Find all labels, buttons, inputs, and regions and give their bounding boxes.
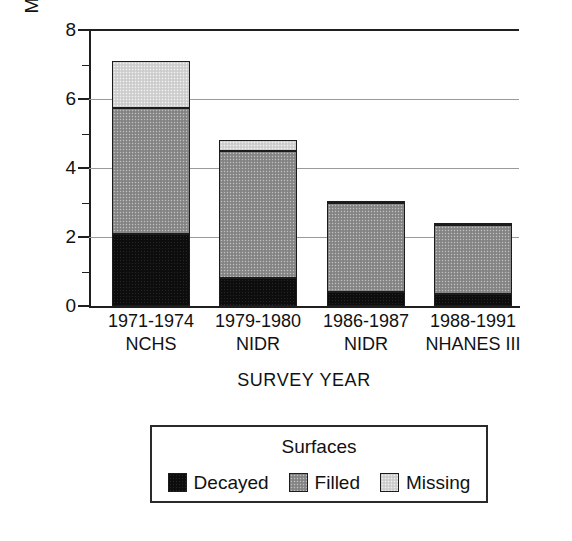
x-tick-label-year: 1988-1991 — [419, 310, 527, 332]
bar-1979-1980[interactable] — [219, 30, 297, 306]
legend-swatch-decayed — [168, 473, 187, 492]
legend-items: DecayedFilledMissing — [152, 467, 486, 497]
x-tick-label-year: 1986-1987 — [312, 310, 420, 332]
x-tick-label-year: 1979-1980 — [204, 310, 312, 332]
x-tick-group-2: 1986-1987NIDR — [312, 310, 420, 356]
y-tick-label-8: 8 — [20, 20, 76, 39]
y-tick-label-2: 2 — [20, 227, 76, 246]
bar-segment-missing[interactable] — [327, 201, 405, 203]
legend-swatch-missing — [380, 473, 399, 492]
bar-segment-decayed[interactable] — [434, 294, 512, 306]
legend-item-missing[interactable]: Missing — [380, 472, 470, 493]
x-tick-group-1: 1979-1980NIDR — [204, 310, 312, 356]
legend-swatch-filled — [289, 473, 308, 492]
bar-1986-1987[interactable] — [327, 30, 405, 306]
x-tick-label-survey: NIDR — [312, 332, 420, 356]
plot-area — [89, 30, 519, 306]
bar-segment-filled[interactable] — [434, 225, 512, 294]
bar-segment-filled[interactable] — [327, 203, 405, 293]
y-tick-minor-1 — [82, 272, 89, 273]
bar-segment-missing[interactable] — [112, 61, 190, 108]
x-tick-label-survey: NHANES III — [419, 332, 527, 356]
bar-1988-1991[interactable] — [434, 30, 512, 306]
y-tick-major-6 — [78, 98, 89, 100]
x-axis-title: SURVEY YEAR — [89, 370, 519, 391]
y-tick-minor-7 — [82, 65, 89, 66]
bar-segment-decayed[interactable] — [219, 278, 297, 306]
y-tick-major-2 — [78, 236, 89, 238]
bar-segment-filled[interactable] — [219, 151, 297, 279]
bar-segment-filled[interactable] — [112, 108, 190, 234]
y-tick-label-0: 0 — [20, 296, 76, 315]
legend-label-decayed: Decayed — [194, 472, 269, 493]
bar-segment-decayed[interactable] — [327, 292, 405, 306]
y-tick-minor-3 — [82, 203, 89, 204]
x-tick-group-3: 1988-1991NHANES III — [419, 310, 527, 356]
y-tick-minor-5 — [82, 134, 89, 135]
x-tick-group-0: 1971-1974NCHS — [97, 310, 205, 356]
bar-segment-decayed[interactable] — [112, 234, 190, 306]
x-axis-line — [89, 306, 520, 308]
y-tick-major-8 — [78, 29, 89, 31]
stacked-bar-chart-figure: Mean surfaces 02468 1971-1974NCHS1979-19… — [0, 0, 572, 541]
x-tick-label-survey: NIDR — [204, 332, 312, 356]
bar-segment-missing[interactable] — [219, 140, 297, 150]
y-axis-tick-labels: 02468 — [8, 0, 76, 340]
y-tick-major-0 — [78, 305, 89, 307]
bar-1971-1974[interactable] — [112, 30, 190, 306]
y-tick-label-6: 6 — [20, 89, 76, 108]
x-axis-tick-labels: 1971-1974NCHS1979-1980NIDR1986-1987NIDR1… — [89, 310, 519, 370]
legend-label-filled: Filled — [315, 472, 360, 493]
legend-box: Surfaces DecayedFilledMissing — [150, 425, 488, 503]
y-tick-major-4 — [78, 167, 89, 169]
legend-item-decayed[interactable]: Decayed — [168, 472, 269, 493]
x-tick-label-survey: NCHS — [97, 332, 205, 356]
legend-label-missing: Missing — [406, 472, 470, 493]
y-tick-label-4: 4 — [20, 158, 76, 177]
legend-title: Surfaces — [152, 435, 486, 458]
legend-item-filled[interactable]: Filled — [289, 472, 360, 493]
bar-segment-missing[interactable] — [434, 223, 512, 225]
x-tick-label-year: 1971-1974 — [97, 310, 205, 332]
